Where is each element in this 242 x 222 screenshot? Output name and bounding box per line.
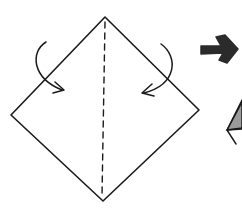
next-step-arrow-icon — [201, 35, 238, 63]
right-fold-arrow-icon — [142, 44, 172, 96]
step-current — [11, 17, 199, 201]
origami-diagram — [0, 0, 242, 222]
valley-fold-line — [102, 22, 105, 196]
step-next-partial — [227, 100, 242, 144]
